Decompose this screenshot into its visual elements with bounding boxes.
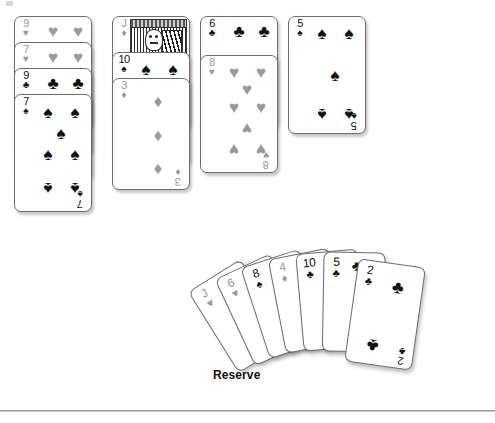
face-card-head: [145, 29, 163, 51]
pip: ♣: [47, 75, 58, 92]
pip: ♦: [154, 161, 163, 178]
pip: ♠: [70, 104, 79, 121]
pip: ♠: [344, 25, 353, 42]
pip: ♠: [317, 106, 326, 123]
card-5-spades[interactable]: 5 ♠ 5 ♠ ♠ ♠ ♠ ♠ ♠: [288, 16, 366, 134]
card-corner-index: J ♦: [117, 18, 131, 37]
pip: ♣: [233, 23, 244, 40]
pip: ♠: [43, 104, 52, 121]
pip: ♠: [56, 125, 65, 142]
pip: ♥: [256, 141, 266, 158]
pip: ♠: [43, 146, 52, 163]
face-card-mouth: [150, 42, 158, 44]
face-card-eye-right: [155, 35, 158, 38]
solitaire-board: 9 ♥ ♥ ♥ 7 ♥ ♥ ♥ 9 ♣: [0, 0, 495, 423]
pip: ♥: [73, 49, 83, 66]
pip: ♥: [229, 99, 239, 116]
pip: ♦: [154, 127, 163, 144]
card-3-diamonds[interactable]: 3 ♦ 3 ♦ ♦ ♦ ♦: [112, 78, 190, 190]
pip: ♠: [168, 61, 177, 78]
pip: ♠: [344, 106, 353, 123]
card-pips: ♦ ♦ ♦: [113, 79, 189, 189]
pip: ♣: [72, 75, 83, 92]
pip: ♠: [70, 180, 79, 197]
card-corner-index: 6 ♥: [222, 275, 244, 301]
pip: ♣: [366, 336, 380, 354]
pip: ♠: [70, 146, 79, 163]
pip: ♥: [256, 64, 266, 81]
card-corner-index: J ♥: [195, 285, 219, 311]
pip: ♥: [256, 99, 266, 116]
reserve-label: Reserve: [213, 368, 260, 382]
corner-artifact: [6, 1, 13, 6]
pip: ♥: [242, 81, 252, 98]
card-7-spades[interactable]: 7 ♠ 7 ♠ ♠ ♠ ♠ ♠ ♠ ♠ ♠: [14, 94, 92, 212]
bottom-divider-highlight: [0, 411, 495, 412]
reserve-card-2-clubs[interactable]: 2 ♣ 2 ♣ ♣ ♣: [344, 258, 426, 370]
card-suit-icon: ♥: [227, 285, 244, 300]
card-pips: ♠ ♠ ♠ ♠ ♠: [289, 17, 365, 133]
card-pips: ♠ ♠ ♠ ♠ ♠ ♠ ♠: [15, 95, 91, 211]
pip: ♣: [258, 23, 269, 40]
pip: ♦: [154, 93, 163, 110]
pip: ♠: [317, 25, 326, 42]
face-card-illustration: [130, 19, 187, 55]
pip: ♠: [141, 61, 150, 78]
pip: ♥: [48, 49, 58, 66]
card-suit-icon: ♦: [117, 28, 131, 37]
card-pips: ♣ ♣: [345, 259, 425, 369]
pip: ♥: [229, 141, 239, 158]
pip: ♠: [330, 67, 339, 84]
pip: ♠: [43, 180, 52, 197]
pip: ♥: [242, 120, 252, 137]
face-card-eye-left: [149, 35, 152, 38]
face-card-crown: [131, 20, 186, 28]
card-8-hearts[interactable]: 8 ♥ 8 ♥ ♥ ♥ ♥ ♥ ♥ ♥ ♥ ♥: [200, 55, 278, 173]
pip: ♥: [48, 23, 58, 40]
card-pips: ♥ ♥ ♥ ♥ ♥ ♥ ♥ ♥: [201, 56, 277, 172]
pip: ♣: [391, 279, 405, 297]
pip: ♥: [229, 64, 239, 81]
pip: ♥: [73, 23, 83, 40]
